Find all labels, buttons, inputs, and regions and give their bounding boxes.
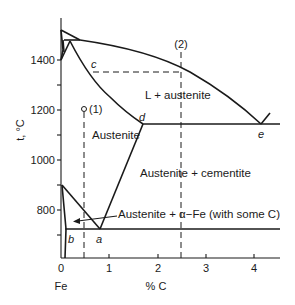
x-tick-0: 0 bbox=[58, 262, 64, 274]
x-tick-1: 1 bbox=[106, 262, 112, 274]
point-a: a bbox=[96, 233, 102, 245]
region-austenite: Austenite bbox=[92, 129, 140, 141]
y-tick-1000: 1000 bbox=[31, 154, 55, 166]
alpha-solvus bbox=[62, 185, 66, 258]
x-origin-label: Fe bbox=[55, 280, 68, 292]
liquidus-curve bbox=[80, 40, 261, 124]
x-tick-2: 2 bbox=[155, 262, 161, 274]
marker-2-label: (2) bbox=[174, 38, 187, 50]
region-austenite-alpha: Austenite + α−Fe (with some C) bbox=[118, 208, 280, 220]
region-austenite-cementite: Austenite + cementite bbox=[140, 167, 251, 179]
marker-1-circle bbox=[82, 107, 87, 112]
point-c: c bbox=[91, 58, 97, 70]
point-e: e bbox=[258, 128, 264, 140]
x-axis-label: % C bbox=[146, 280, 167, 292]
y-ticks bbox=[57, 60, 61, 235]
phase-diagram: 1400 1200 1000 800 t, °C 0 1 2 3 4 Fe % … bbox=[0, 0, 295, 305]
x-tick-3: 3 bbox=[203, 262, 209, 274]
x-tick-4: 4 bbox=[251, 262, 257, 274]
marker-1-label: (1) bbox=[89, 103, 102, 115]
arrow-head-icon bbox=[73, 218, 80, 224]
y-axis-label: t, °C bbox=[14, 119, 26, 141]
cementite-liquidus bbox=[261, 113, 270, 124]
a3-line bbox=[62, 185, 100, 229]
point-d: d bbox=[139, 111, 146, 123]
region-liquid-austenite: L + austenite bbox=[145, 89, 211, 101]
y-tick-800: 800 bbox=[37, 204, 55, 216]
solidus-curve bbox=[70, 41, 143, 124]
y-tick-1400: 1400 bbox=[31, 54, 55, 66]
point-b: b bbox=[68, 233, 74, 245]
y-tick-1200: 1200 bbox=[31, 104, 55, 116]
